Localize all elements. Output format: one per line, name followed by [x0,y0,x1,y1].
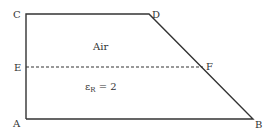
boundary-outline [26,14,253,119]
vertex-label-b: B [255,119,262,130]
vertex-label-a: A [12,118,21,129]
region-label-air: Air [92,41,108,52]
vertex-label-c: C [13,9,21,20]
region-label-dielectric: εR = 2 [85,81,117,94]
vertex-label-d: D [152,9,160,20]
vertex-label-f: F [206,61,213,72]
diagram-canvas: C D E F A B Air εR = 2 [0,0,278,133]
vertex-label-e: E [14,62,21,73]
epsilon-value: = 2 [95,81,116,92]
